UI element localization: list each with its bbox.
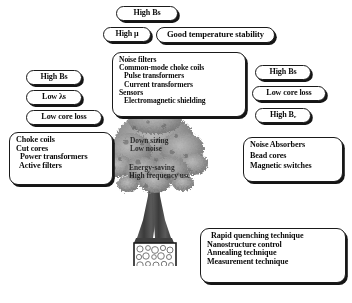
pill-label: Low λs (42, 93, 66, 102)
list-item: Bead cores (250, 150, 337, 161)
pill-label: High Bs (41, 73, 68, 82)
canopy-line-low-noise: Low noise (130, 145, 168, 153)
subscript-r: r (294, 114, 296, 119)
pill-right-low-core-loss[interactable]: Low core loss (252, 86, 326, 101)
list-item: Noise Absorbers (250, 141, 337, 150)
applications-left[interactable]: Choke coils Cut cores Power transformers… (9, 132, 113, 185)
pill-left-low-lambda-s[interactable]: Low λs (26, 90, 82, 105)
pill-label: Low core loss (266, 89, 311, 98)
technologies-bottom[interactable]: Rapid quenching technique Nanostructure … (200, 228, 346, 283)
canopy-line-high-frequency-use: High frequency use (129, 172, 190, 180)
pill-label: High μ (115, 30, 138, 39)
figure-canvas: Down sizing Low noise Energy-saving High… (0, 0, 352, 303)
pill-left-high-bs[interactable]: High Bs (26, 70, 82, 85)
canopy-benefit-group-a: Down sizing Low noise (130, 137, 168, 154)
pill-label: High Bs (270, 68, 297, 77)
applications-right[interactable]: Noise Absorbers Bead cores Magnetic swit… (243, 137, 343, 182)
pill-left-low-core-loss[interactable]: Low core loss (26, 110, 102, 125)
nanostructure-box (134, 243, 176, 266)
pill-high-mu[interactable]: High μ (103, 27, 151, 42)
applications-center[interactable]: Noise filters Common-mode choke coils Pu… (112, 52, 246, 117)
canopy-benefit-group-b: Energy-saving High frequency use (129, 164, 190, 181)
list-item: Active filters (16, 162, 107, 171)
pill-label: Good temperature stability (167, 30, 264, 39)
pill-right-high-bs[interactable]: High Bs (255, 65, 311, 80)
pill-label: Low core loss (41, 113, 86, 122)
list-item: Magnetic switches (250, 160, 337, 171)
pill-label: High Bs (134, 9, 161, 18)
pill-right-high-br[interactable]: High Br (255, 108, 311, 123)
pill-good-temperature-stability[interactable]: Good temperature stability (156, 27, 275, 43)
pill-label: High Br (270, 111, 296, 120)
list-item: Electromagnetic shielding (119, 97, 240, 105)
list-item: Measurement technique (207, 258, 340, 267)
pill-high-bs-top[interactable]: High Bs (116, 6, 178, 21)
